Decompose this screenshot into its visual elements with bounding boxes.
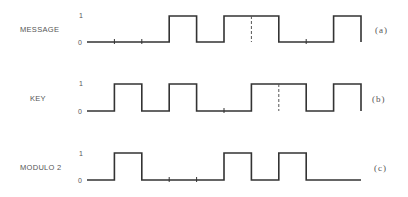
row-label-key: KEY	[30, 94, 46, 103]
level-high-message: 1	[79, 12, 83, 19]
tag-c: (c)	[374, 163, 387, 173]
level-low-key: 0	[78, 108, 82, 115]
level-high-modulo2: 1	[79, 150, 83, 157]
waveform-line	[87, 16, 361, 42]
row-key: KEY 1 0 (b)	[30, 80, 386, 115]
level-low-modulo2: 0	[78, 177, 82, 184]
row-label-modulo2: MODULO 2	[20, 163, 62, 172]
row-modulo2: MODULO 2 1 0 (c)	[20, 150, 387, 184]
waveform-line	[87, 153, 361, 180]
waveform-key	[87, 84, 361, 113]
row-message: MESSAGE 1 0 (a)	[20, 12, 388, 46]
tag-b: (b)	[372, 94, 386, 104]
row-label-message: MESSAGE	[20, 25, 59, 34]
waveform-message	[87, 16, 361, 44]
waveform-modulo2	[87, 153, 361, 182]
tag-a: (a)	[375, 25, 388, 35]
level-low-message: 0	[78, 39, 82, 46]
binary-waveform-diagram: MESSAGE 1 0 (a) KEY 1 0 (b) MODULO 2 1 0…	[0, 0, 408, 197]
level-high-key: 1	[79, 80, 83, 87]
waveform-line	[87, 84, 361, 111]
